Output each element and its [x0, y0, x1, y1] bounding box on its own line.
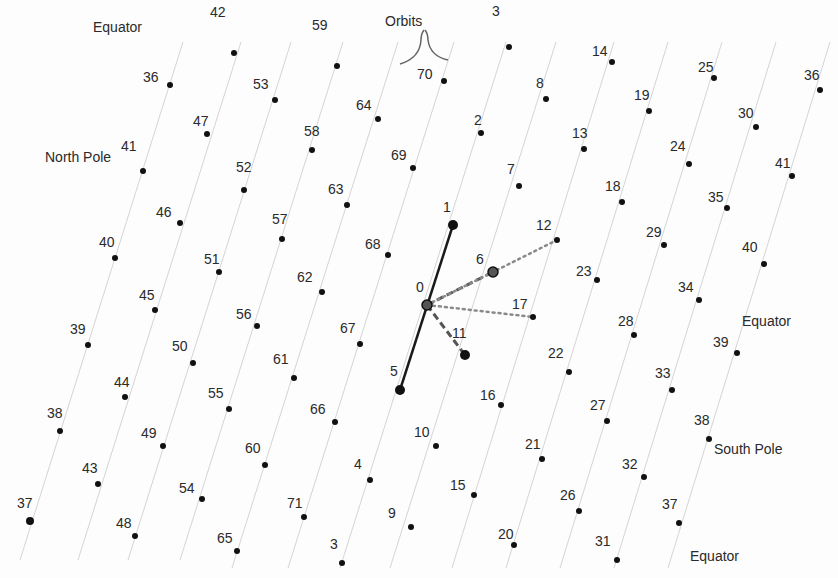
- satellite-dot-icon: [734, 350, 740, 356]
- satellite-dot-icon: [460, 350, 470, 360]
- satellite-label: 14: [592, 44, 608, 58]
- satellite-dot-icon: [706, 436, 712, 442]
- satellite-dot-icon: [85, 342, 91, 348]
- satellite-dot-icon: [122, 394, 128, 400]
- satellite-label: 7: [507, 162, 515, 176]
- satellite-dot-icon: [167, 82, 173, 88]
- satellite-label: 33: [655, 366, 671, 380]
- satellite-label: 71: [287, 496, 303, 510]
- satellite-dot-icon: [226, 406, 232, 412]
- satellite-dot-icon: [448, 220, 458, 230]
- satellite-dot-icon: [367, 477, 373, 483]
- satellite-dot-icon: [422, 300, 432, 310]
- satellite-dot-icon: [375, 116, 381, 122]
- orbits-label: Orbits: [385, 14, 422, 28]
- satellite-dot-icon: [112, 255, 118, 261]
- satellite-label: 54: [179, 481, 195, 495]
- orbit-line: [390, 42, 556, 568]
- satellite-dot-icon: [724, 205, 730, 211]
- satellite-label: 66: [310, 402, 326, 416]
- satellite-label: 12: [536, 218, 552, 232]
- satellite-dot-icon: [498, 402, 504, 408]
- satellite-label: 30: [738, 106, 754, 120]
- satellite-label: 32: [622, 457, 638, 471]
- satellite-label: 67: [340, 321, 356, 335]
- satellite-label: 3: [492, 4, 500, 18]
- satellite-label: 60: [245, 441, 261, 455]
- satellite-dot-icon: [95, 481, 101, 487]
- satellite-label: 57: [272, 212, 288, 226]
- satellite-dot-icon: [488, 267, 498, 277]
- satellite-dot-icon: [140, 168, 146, 174]
- satellite-label: 13: [572, 126, 588, 140]
- satellite-dot-icon: [279, 236, 285, 242]
- orbits-bracket-icon: [400, 30, 448, 64]
- satellite-label: 41: [121, 139, 137, 153]
- satellite-dot-icon: [641, 474, 647, 480]
- satellite-dot-icon: [543, 96, 549, 102]
- orbit-line: [20, 42, 183, 560]
- satellite-label: 34: [678, 280, 694, 294]
- satellite-label: 65: [217, 531, 233, 545]
- satellite-label: 39: [713, 335, 729, 349]
- satellite-dot-icon: [506, 44, 512, 50]
- satellite-label: 27: [590, 398, 606, 412]
- satellite-dot-icon: [609, 59, 615, 65]
- satellite-label: 44: [114, 375, 130, 389]
- satellite-label: 29: [646, 225, 662, 239]
- satellite-dot-icon: [234, 548, 240, 554]
- equator-label-right: Equator: [742, 314, 791, 328]
- satellite-label: 37: [17, 496, 33, 510]
- satellite-dot-icon: [576, 508, 582, 514]
- satellite-dot-icon: [433, 443, 439, 449]
- satellite-dot-icon: [594, 277, 600, 283]
- equator-label-top-left: Equator: [93, 20, 142, 34]
- satellite-dot-icon: [530, 314, 536, 320]
- satellite-dot-icon: [661, 242, 667, 248]
- satellite-dot-icon: [152, 307, 158, 313]
- satellite-label: 10: [414, 425, 430, 439]
- satellite-label: 53: [253, 77, 269, 91]
- satellite-label: 4: [354, 457, 362, 471]
- satellite-dot-icon: [272, 97, 278, 103]
- satellite-dot-icon: [511, 542, 517, 548]
- satellite-dot-icon: [581, 146, 587, 152]
- satellite-label: 45: [139, 288, 155, 302]
- satellite-label: 8: [536, 76, 544, 90]
- satellite-label: 62: [297, 270, 313, 284]
- satellite-dot-icon: [357, 341, 363, 347]
- satellite-dot-icon: [516, 183, 522, 189]
- satellite-dot-icon: [291, 375, 297, 381]
- satellite-label: 40: [742, 240, 758, 254]
- satellite-dot-icon: [471, 492, 477, 498]
- satellite-dot-icon: [199, 496, 205, 502]
- satellite-dot-icon: [385, 252, 391, 258]
- satellite-label: 1: [443, 200, 451, 214]
- orbit-line: [506, 42, 668, 568]
- satellite-label: 2: [474, 113, 482, 127]
- satellite-label: 38: [47, 406, 63, 420]
- satellite-dot-icon: [646, 108, 652, 114]
- satellite-dot-icon: [319, 289, 325, 295]
- orbit-line: [232, 42, 398, 568]
- satellite-dot-icon: [177, 220, 183, 226]
- satellite-label: 42: [210, 5, 226, 19]
- satellite-label: 18: [605, 179, 621, 193]
- satellite-label: 69: [391, 148, 407, 162]
- satellite-dot-icon: [566, 369, 572, 375]
- satellite-dot-icon: [789, 173, 795, 179]
- satellite-label: 47: [193, 114, 209, 128]
- satellite-dot-icon: [204, 131, 210, 137]
- satellite-dot-icon: [631, 332, 637, 338]
- satellite-label: 0: [416, 280, 424, 294]
- satellite-dot-icon: [711, 75, 717, 81]
- satellite-dot-icon: [669, 387, 675, 393]
- satellite-dot-icon: [817, 87, 823, 93]
- satellite-dot-icon: [539, 456, 545, 462]
- satellite-label: 46: [156, 205, 172, 219]
- satellite-label: 23: [576, 264, 592, 278]
- satellite-label: 51: [204, 252, 220, 266]
- satellite-dot-icon: [410, 165, 416, 171]
- satellite-dot-icon: [132, 533, 138, 539]
- satellite-label: 40: [99, 235, 115, 249]
